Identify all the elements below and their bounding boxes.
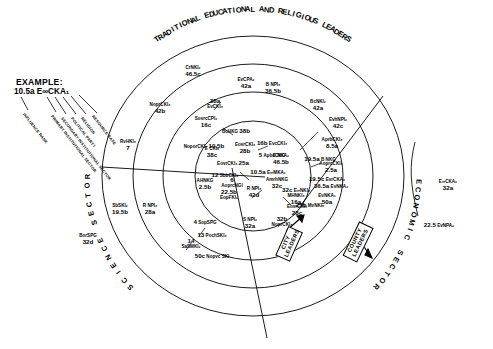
node-label: 4 SopSPG — [193, 219, 216, 226]
node-label: 6AoprcNGI — [221, 177, 242, 188]
legend-leader-1 — [47, 97, 56, 112]
node-label: EovrCKI₃ 25a — [217, 160, 249, 167]
node-label: E CKI₆38c — [205, 147, 219, 158]
node-rank: 38c — [207, 151, 217, 158]
node-code: E∞MKA₁ — [267, 170, 286, 175]
node-label: E∞CKA₂32a — [439, 180, 457, 191]
node-code: EvcCKI₃ — [269, 141, 287, 146]
legend-heading: EXAMPLE: — [16, 78, 63, 87]
node-rank: 19.5c — [309, 175, 324, 182]
node-rank: 22.5 — [424, 221, 436, 228]
node-code: MvNKI₅ — [308, 203, 324, 208]
node-label: 38aEvCKI₃ — [207, 98, 223, 109]
node-label: EvhNPI₂42c — [329, 118, 347, 129]
node-label: SovrcCPI₂16c — [195, 117, 217, 128]
node-rank: 13 — [197, 231, 204, 238]
leader-6 — [300, 132, 318, 150]
node-label: BorSPG32d — [79, 234, 97, 245]
node-label: R NPI₃28a — [143, 204, 157, 215]
node-rank: 28b — [240, 147, 251, 154]
ring-title-traditional-char: L — [250, 5, 255, 14]
node-rank: 32c — [272, 182, 282, 189]
node-code: NoprCKI₃ — [272, 222, 293, 227]
node-rank: 50c — [195, 252, 205, 259]
sector-title-science-char: T — [83, 191, 93, 197]
node-label: AoprcCKI₃2.5a — [319, 162, 342, 173]
leader-3 — [258, 146, 268, 150]
node-rank: 32c — [282, 186, 292, 193]
node-rank: 32d — [83, 238, 94, 245]
node-label: 13 PochSKI₃ — [197, 232, 226, 239]
node-rank: 19.5a — [304, 155, 319, 162]
node-label: 50c Nopvc SKI — [195, 253, 230, 260]
node-rank: 8.5a — [326, 142, 338, 149]
node-code: SopSPG — [198, 220, 216, 225]
node-label: 32c E∞NKI₂ — [282, 187, 310, 194]
node-rank: 7 — [126, 144, 129, 151]
node-rank: 25a — [239, 159, 249, 166]
node-rank: 42a — [241, 82, 251, 89]
node-rank: 42a — [313, 104, 323, 111]
node-code: EovrCKI₃ — [217, 161, 237, 166]
node-rank: 16c — [201, 121, 211, 128]
node-label: 22.5bEopFKI₂ — [220, 189, 238, 200]
node-label: R NPI₃42d — [247, 187, 261, 198]
node-label: BcHKG 38b — [222, 128, 250, 135]
sector-title-economic-char: E — [414, 179, 423, 185]
node-label: 10.5a E∞MKA₁ — [250, 169, 285, 176]
sector-title-science-char: R — [83, 173, 92, 179]
node-rank: 38b — [239, 127, 250, 134]
sector-title-science-char: O — [83, 182, 92, 189]
ring-geometry — [0, 0, 493, 349]
node-rank: 2.5b — [199, 183, 211, 190]
node-rank: 28a — [145, 208, 155, 215]
node-rank: 42c — [333, 122, 343, 129]
node-label: CrNKI₂46.5c — [185, 66, 200, 77]
node-label: EovrCKI₃28b — [235, 143, 255, 154]
node-code: PochSKI₃ — [206, 233, 227, 238]
node-code: BcHKG — [222, 129, 238, 134]
node-rank: 12 — [212, 171, 219, 178]
node-code: EvCKI₃ — [207, 104, 223, 109]
node-rank: 16b — [257, 139, 268, 146]
node-rank: 19.5b — [112, 208, 128, 215]
node-label: S NPI₂32a — [243, 218, 257, 229]
node-code: EvNKA₂ — [331, 184, 349, 189]
node-code: AoprcNGI — [221, 183, 242, 188]
node-rank: 36.5a — [314, 182, 329, 189]
node-code: Nopvc SKI — [206, 254, 229, 259]
legend-leader-0 — [21, 97, 28, 110]
node-label: 36.5a EvNKA₂ — [314, 183, 348, 190]
node-label: 32bNoprCKI₃ — [272, 216, 293, 227]
legend-leader-4 — [71, 96, 86, 114]
legend-example-code: 10.5a E∞CKA₁ — [14, 88, 69, 96]
node-rank: 28c — [292, 209, 302, 216]
node-rank: 46.5c — [185, 70, 200, 77]
node-rank: 5 — [259, 151, 262, 158]
sociogram-figure: EXAMPLE: 10.5a E∞CKA₁ INFLUENCE RANKPRIM… — [0, 0, 493, 349]
node-label: RvHKI₃7 — [120, 140, 136, 151]
node-label: 16b EvcCKI₃ — [257, 140, 287, 147]
node-rank: 4 — [193, 218, 196, 225]
node-code: EopFKI₂ — [220, 195, 238, 200]
node-label: 22.5 EvNPA₂ — [424, 222, 454, 229]
divider-west — [102, 167, 265, 177]
node-code: EvNPA₂ — [437, 223, 454, 228]
node-code: SaSMKI₂ — [181, 244, 200, 249]
node-rank: 32a — [245, 222, 255, 229]
node-rank: 32a — [443, 184, 453, 191]
legend-leader-2 — [55, 97, 66, 114]
sector-title-economic-char: O — [413, 194, 423, 202]
node-rank: 36.5b — [265, 87, 281, 94]
node-label: NoprCKI₃42b — [150, 103, 171, 114]
node-label: E NKA₂46.5b — [273, 154, 289, 165]
node-rank: 42d — [249, 191, 260, 198]
node-label: SbSKI₂19.5b — [112, 204, 128, 215]
legend-leader-5 — [79, 95, 97, 113]
node-rank: 2.5a — [325, 166, 337, 173]
node-rank: 46.5b — [273, 158, 289, 165]
node-label: AHNKG2.5b — [197, 179, 214, 190]
node-label: BcNKI₂42a — [310, 100, 326, 111]
node-rank: 10.5a — [250, 168, 265, 175]
node-label: EvCPA₂42a — [237, 78, 254, 89]
